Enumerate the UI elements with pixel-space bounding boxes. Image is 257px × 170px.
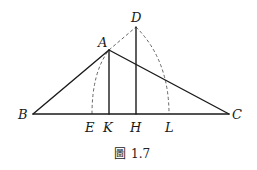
caption-number: 1.7 <box>131 147 150 161</box>
label-d: D <box>130 10 142 25</box>
label-k: K <box>102 120 114 135</box>
triangle-diagram: D A B C E K H L 圖 1.7 <box>0 0 257 170</box>
segment-ab <box>33 50 109 114</box>
geometry-figure: D A B C E K H L 圖 1.7 <box>0 0 257 170</box>
caption-prefix: 圖 <box>114 147 126 161</box>
segment-ad <box>109 27 136 50</box>
label-h: H <box>129 120 142 135</box>
arc-e-to-a <box>92 50 109 114</box>
label-a: A <box>97 35 107 50</box>
label-l: L <box>164 120 174 135</box>
label-e: E <box>84 120 95 135</box>
label-c: C <box>232 107 242 122</box>
arc-d-to-l <box>136 27 169 114</box>
label-b: B <box>17 107 28 122</box>
